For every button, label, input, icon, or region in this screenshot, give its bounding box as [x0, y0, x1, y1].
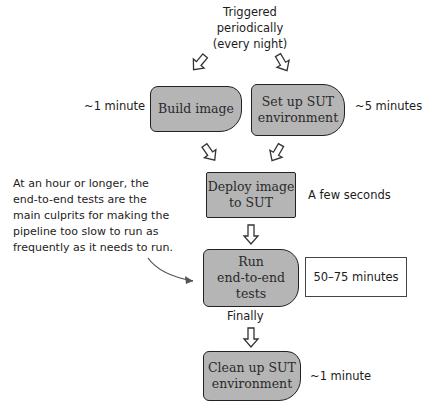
- pipeline-diagram: Triggered periodically (every night) ~1 …: [0, 0, 430, 419]
- arrow-down-left-icon: [188, 51, 210, 74]
- arrow-down-right-icon: [272, 52, 293, 75]
- arrow-down-right-icon: [199, 141, 221, 164]
- arrows-layer: [0, 0, 430, 419]
- arrow-down-icon: [244, 225, 258, 244]
- arrow-down-icon: [244, 328, 258, 347]
- arrow-down-left-icon: [266, 142, 287, 165]
- pointer-arrow-icon: [148, 258, 193, 284]
